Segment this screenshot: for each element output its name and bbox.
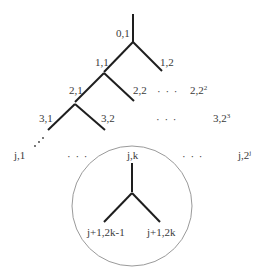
node-j-1: j,1 xyxy=(13,149,25,161)
edge-1-1-right xyxy=(104,73,134,101)
tree-svg: 0,1 1,1 1,2 2,1 2,2 · · · 2,22 3,1 3,2 ·… xyxy=(0,0,265,277)
ellipsis-level-j-left: · · · xyxy=(67,150,89,162)
node-child-left: j+1,2k-1 xyxy=(86,226,125,238)
node-2-last: 2,22 xyxy=(190,84,208,96)
node-3-2: 3,2 xyxy=(101,112,115,124)
ellipsis-level-3: · · · xyxy=(156,113,178,125)
edge-j-k-right xyxy=(132,193,160,222)
diagonal-ellipsis xyxy=(34,137,44,147)
subtree-edges xyxy=(104,163,160,222)
edge-0-1-right xyxy=(133,42,162,71)
tree-diagram: 0,1 1,1 1,2 2,1 2,2 · · · 2,22 3,1 3,2 ·… xyxy=(0,0,265,277)
ellipsis-level-2: · · · xyxy=(157,85,179,97)
node-1-1: 1,1 xyxy=(95,56,109,68)
node-j-k: j,k xyxy=(126,149,139,161)
ellipsis-level-j-right: · · · xyxy=(182,150,204,162)
node-2-1: 2,1 xyxy=(69,84,83,96)
node-child-right: j+1,2k xyxy=(146,226,176,238)
node-2-2: 2,2 xyxy=(133,84,147,96)
node-1-2: 1,2 xyxy=(160,56,174,68)
node-j-last: j,2j xyxy=(237,149,251,161)
node-3-1: 3,1 xyxy=(39,112,53,124)
node-0-1: 0,1 xyxy=(116,27,130,39)
edge-j-k-left xyxy=(104,193,132,222)
node-3-last: 3,23 xyxy=(213,112,231,124)
